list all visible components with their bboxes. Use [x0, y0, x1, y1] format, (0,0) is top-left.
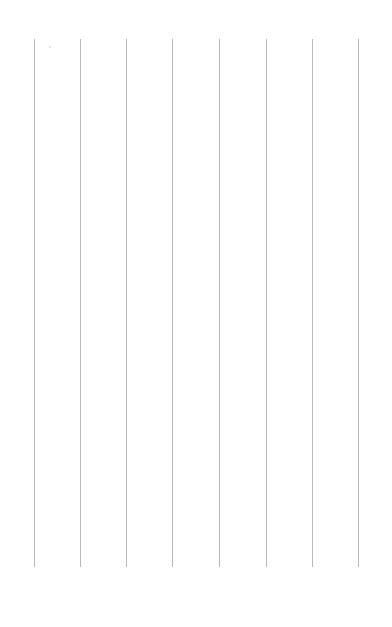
vertical-rule-4 [172, 39, 173, 567]
vertical-rule-1 [34, 39, 35, 567]
blank-ruled-page [0, 0, 392, 627]
vertical-rule-7 [312, 39, 313, 567]
vertical-rule-8 [358, 39, 359, 567]
vertical-rule-6 [266, 39, 267, 567]
vertical-rule-5 [219, 39, 220, 567]
vertical-rule-2 [80, 39, 81, 567]
scan-speck [49, 46, 51, 48]
vertical-rule-3 [126, 39, 127, 567]
